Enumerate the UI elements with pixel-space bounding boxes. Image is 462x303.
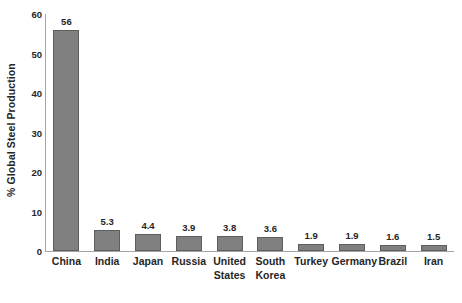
bar-value-label: 1.5 [427,231,440,242]
y-axis-tick-label: 40 [18,88,42,99]
bar[interactable] [53,30,79,251]
bar-chart: % Global Steel Production 0102030405060 … [0,0,462,303]
x-axis-category-label: India [87,255,128,269]
bar[interactable] [339,244,365,252]
x-axis-category-label: UnitedStates [209,255,250,282]
bar-slot: 1.9 [332,14,373,251]
x-axis-category-label: Japan [128,255,169,269]
bar-value-label: 3.9 [182,222,195,233]
bar-slot: 3.8 [209,14,250,251]
bar[interactable] [257,237,283,251]
bar-value-label: 3.6 [264,223,277,234]
bar[interactable] [421,245,447,251]
bar[interactable] [94,230,120,251]
bar-value-label: 1.9 [305,230,318,241]
y-axis-tick-label: 30 [18,127,42,138]
bar[interactable] [176,236,202,251]
x-axis-category-label: Russia [168,255,209,269]
x-axis-category-label: SouthKorea [250,255,291,282]
bar-value-label: 4.4 [141,220,154,231]
bar-value-label: 56 [61,16,72,27]
bar-value-label: 1.6 [386,231,399,242]
x-axis-category-label: Iran [413,255,454,269]
bar-slot: 56 [46,14,87,251]
bar-value-label: 3.8 [223,222,236,233]
x-axis-category-label: Turkey [291,255,332,269]
y-axis-title-text: % Global Steel Production [5,63,17,197]
bar-slot: 3.6 [250,14,291,251]
x-axis-category-labels: ChinaIndiaJapanRussiaUnitedStatesSouthKo… [46,255,454,303]
x-axis-category-label: Germany [332,255,373,269]
y-axis-tick-labels: 0102030405060 [18,0,42,303]
bar[interactable] [135,234,161,251]
bar[interactable] [380,245,406,251]
x-axis-category-label: Brazil [372,255,413,269]
bar-slot: 5.3 [87,14,128,251]
y-axis-tick-label: 60 [18,9,42,20]
bar-slot: 4.4 [128,14,169,251]
bar-slot: 3.9 [168,14,209,251]
bar-slot: 1.9 [291,14,332,251]
bar-value-label: 1.9 [345,230,358,241]
x-axis-category-label: China [46,255,87,269]
bar[interactable] [298,244,324,252]
bar-slot: 1.6 [372,14,413,251]
y-axis-tick-label: 50 [18,48,42,59]
y-axis-tick-label: 20 [18,167,42,178]
bar-value-label: 5.3 [101,216,114,227]
plot-area: 565.34.43.93.83.61.91.91.61.5 [46,14,454,251]
bar[interactable] [217,236,243,251]
bar-slot: 1.5 [413,14,454,251]
y-axis-tick-label: 10 [18,206,42,217]
y-axis-tick-label: 0 [18,246,42,257]
